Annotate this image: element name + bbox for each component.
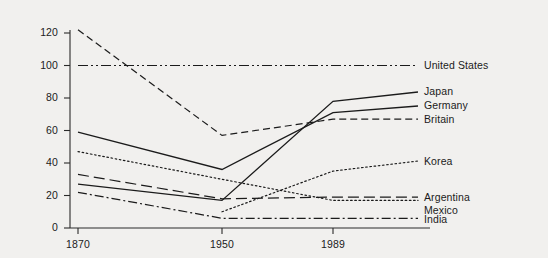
line-chart-plot [0, 0, 548, 258]
series-label-united-states: United States [424, 59, 488, 71]
y-axis-ticks [64, 33, 70, 228]
x-tick-label-1950: 1950 [192, 238, 252, 250]
chart-container: 120 100 80 60 40 20 0 1870 1950 1989 Uni… [0, 0, 548, 258]
x-tick-label-1989: 1989 [303, 238, 363, 250]
series-label-india: India [424, 213, 447, 225]
series-label-korea: Korea [424, 155, 453, 167]
series-line-argentina [78, 174, 418, 198]
series-line-germany [78, 106, 418, 170]
series-line-india [78, 192, 418, 218]
series-label-britain: Britain [424, 113, 454, 125]
series-line-britain [78, 30, 418, 136]
series-label-argentina: Argentina [424, 191, 470, 203]
y-tick-label-40: 40 [24, 156, 58, 168]
y-tick-label-100: 100 [24, 59, 58, 71]
y-tick-label-80: 80 [24, 91, 58, 103]
series-label-japan: Japan [424, 85, 453, 97]
x-axis-ticks [78, 228, 333, 234]
series-line-korea [222, 161, 418, 212]
y-tick-label-0: 0 [24, 221, 58, 233]
y-tick-label-60: 60 [24, 124, 58, 136]
series-line-mexico [78, 152, 418, 201]
y-tick-label-20: 20 [24, 189, 58, 201]
series-label-germany: Germany [424, 99, 468, 111]
x-tick-label-1870: 1870 [48, 238, 108, 250]
y-tick-label-120: 120 [24, 26, 58, 38]
